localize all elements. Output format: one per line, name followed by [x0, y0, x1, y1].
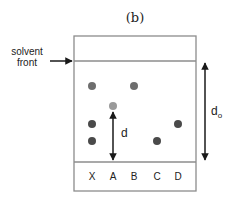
spot-x-2: [88, 120, 96, 128]
distance-d-label: d: [121, 126, 128, 140]
spot-x-1: [88, 82, 96, 90]
lane-labels: X A B C D: [89, 171, 182, 182]
spot-x-3: [88, 137, 96, 145]
lane-label-d: D: [174, 171, 181, 182]
lane-label-a: A: [110, 171, 117, 182]
panel-label: (b): [126, 10, 144, 25]
spot-b: [130, 82, 138, 90]
lane-label-c: C: [153, 171, 160, 182]
solvent-front-label-line2: front: [17, 57, 37, 68]
spot-a: [109, 102, 117, 110]
chromatography-diagram: (b) solvent front d do X A B C D: [0, 0, 233, 202]
spot-d: [174, 120, 182, 128]
solvent-front-label-line1: solvent: [11, 46, 43, 57]
distance-do-subscript: o: [218, 111, 223, 120]
distance-do-label: do: [211, 104, 223, 120]
tlc-plate: [74, 36, 196, 191]
distance-do-main: d: [211, 104, 218, 118]
lane-label-x: X: [89, 171, 96, 182]
lane-label-b: B: [131, 171, 138, 182]
spot-c: [153, 137, 161, 145]
spots: [88, 82, 182, 145]
